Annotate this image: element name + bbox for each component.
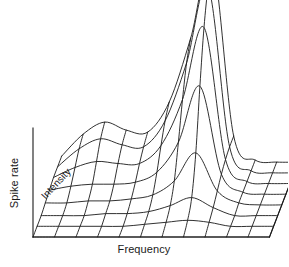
mesh-row-line-7	[62, 0, 288, 163]
mesh-row-line-5	[54, 26, 289, 183]
mesh-row-line-4	[49, 86, 286, 195]
mesh-column-line-2	[76, 122, 105, 237]
x-axis-label: Frequency	[0, 243, 288, 255]
mesh-column-line-5	[141, 102, 170, 237]
mesh-row-line-1	[37, 220, 274, 226]
mesh-row-line-2	[41, 198, 278, 217]
surface-plot-canvas	[0, 0, 288, 267]
surface-plot-figure: Frequency Spike rate Intensity	[0, 0, 288, 267]
mesh-row-line-6	[58, 0, 288, 173]
mesh-column-line-9	[227, 160, 256, 237]
mesh-column-line-7	[184, 0, 213, 237]
y-axis-label: Spike rate	[8, 143, 20, 223]
wireframe-mesh	[33, 0, 288, 237]
